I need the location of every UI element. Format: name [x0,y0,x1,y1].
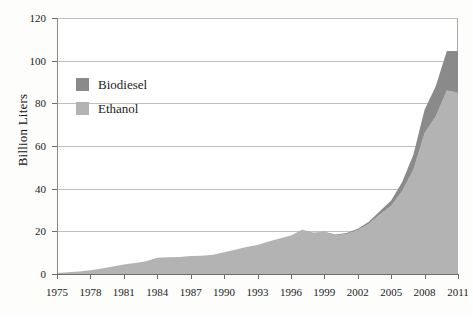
ytick-label-20: 20 [18,226,46,237]
biofuel-production-area-chart: 120 100 80 60 40 20 0 Billion Liters 197… [0,0,473,316]
xtick-mark-1990 [224,274,225,279]
xtick-mark-1984 [157,274,158,279]
xtick-mark-2008 [425,274,426,279]
series-area-layer [57,18,458,274]
legend-label-biodiesel: Biodiesel [98,78,147,91]
xtick-mark-1996 [291,274,292,279]
xtick-label-2011: 2011 [438,287,473,298]
ytick-mark-80 [52,103,57,104]
ytick-mark-20 [52,231,57,232]
legend-item-ethanol: Ethanol [76,98,147,118]
legend-swatch-ethanol [76,102,89,115]
legend-item-biodiesel: Biodiesel [76,74,147,94]
xtick-mark-1993 [258,274,259,279]
ytick-mark-60 [52,146,57,147]
xtick-mark-1981 [124,274,125,279]
legend-label-ethanol: Ethanol [98,102,138,115]
chart-legend: Biodiesel Ethanol [76,74,147,122]
ytick-mark-120 [52,18,57,19]
y-axis-line [57,18,58,275]
xtick-mark-1975 [57,274,58,279]
xtick-mark-1987 [191,274,192,279]
ytick-label-120: 120 [18,13,46,24]
xtick-mark-2005 [391,274,392,279]
xtick-mark-1978 [90,274,91,279]
ytick-mark-100 [52,61,57,62]
ytick-mark-40 [52,189,57,190]
ytick-label-0: 0 [18,269,46,280]
xtick-mark-2002 [358,274,359,279]
xtick-mark-1999 [324,274,325,279]
y-axis-title: Billion Liters [15,65,31,195]
legend-swatch-biodiesel [76,78,89,91]
xtick-mark-2011 [458,274,459,279]
